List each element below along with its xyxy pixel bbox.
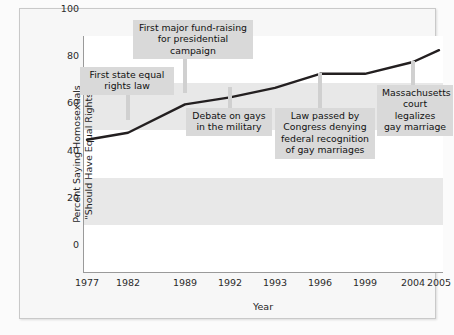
annotation-massachusetts-court-legalizes: Massachusetts court legalizes gay marria… [377,85,453,136]
x-tick-1982: 1982 [116,277,140,288]
x-tick-1977: 1977 [75,277,99,288]
x-tick-2004: 2004 [401,277,425,288]
x-tick-1993: 1993 [263,277,287,288]
leader-line-massachusetts-court-legalizes [411,61,415,85]
x-tick-1989: 1989 [173,277,197,288]
y-tick-100: 100 [49,4,79,14]
leader-line-first-state-equal-rights-law [126,94,130,120]
y-axis-title-line1: Percent Saying Homosexuals [71,85,82,223]
x-tick-1999: 1999 [353,277,377,288]
annotation-first-major-fund-raising: First major fund-raising for presidentia… [133,20,253,59]
annotation-law-denying-federal-recognition: Law passed by Congress denying federal r… [275,108,375,159]
annotation-debate-on-gays-in-the-military: Debate on gays in the military [186,108,272,136]
x-tick-1992: 1992 [218,277,242,288]
y-axis-title-line2: "Should Have Equal Rights" [83,88,94,219]
chart-frame: 100 80 60 40 20 0 Percent Saying Homosex… [19,8,436,319]
chart-figure: 100 80 60 40 20 0 Percent Saying Homosex… [0,0,454,335]
y-axis-title-host: Percent Saying Homosexuals "Should Have … [50,36,70,272]
x-tick-1996: 1996 [308,277,332,288]
leader-line-law-denying-federal-recognition [318,73,322,109]
annotation-first-state-equal-rights-law: First state equal rights law [80,67,174,95]
leader-line-debate-on-gays-in-the-military [228,87,232,109]
x-axis-title: Year [83,301,443,312]
x-axis-line [83,272,443,273]
x-tick-2005: 2005 [427,277,451,288]
